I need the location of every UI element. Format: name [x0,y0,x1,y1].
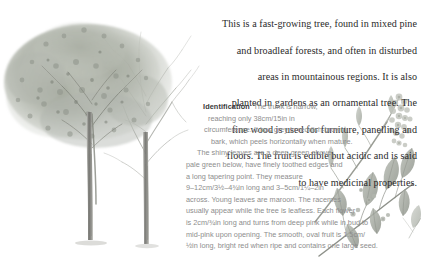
identification-line: across. Young leaves are maroon. The rac… [186,194,419,206]
identification-line: pale green below, have finely toothed ed… [186,159,419,171]
identification-line: circumference. It has grey to reddish-br… [186,124,419,136]
identification-line: The trunk is narrow, [253,102,317,111]
identification-line: is 2cm/¾in long and turns from deep pink… [186,217,419,229]
text-column: This is a fast-growing tree, found in mi… [186,0,419,259]
identification-first-line: Identification The trunk is narrow, [186,101,419,113]
identification-line: mid-pink upon opening. The smooth, oval … [186,229,419,241]
identification-line: bark, which peels horizontally when matu… [186,136,419,148]
identification-line: a long tapering point. They measure [186,171,419,183]
identification-line: reaching only 38cm/15in in [186,113,419,125]
intro-line: and broadleaf forests, and often in dist… [186,44,419,57]
intro-line: areas in mountainous regions. It is also [186,70,419,83]
intro-line: This is a fast-growing tree, found in mi… [186,17,419,30]
identification-heading: Identification [203,102,250,111]
identification-line: 9–12cm/3½–4¾in long and 3–5cm/1¼–2in [186,182,419,194]
identification-line: The shiny leaves are a deep green above, [186,147,419,159]
tree-illustration [0,4,206,259]
identification-line: ½in long, bright red when ripe and conta… [186,240,419,252]
identification-block: Identification The trunk is narrow, reac… [186,101,419,252]
identification-line: usually appear while the tree is leafles… [186,205,419,217]
